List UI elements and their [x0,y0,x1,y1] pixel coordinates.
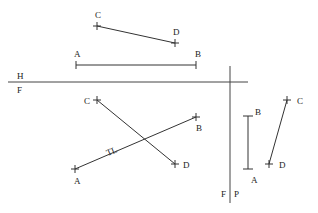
top-label-d: D [173,27,180,37]
fold-label-f2: F [221,189,226,199]
fold-label-h: H [17,71,24,81]
profile-label-c: C [297,96,303,106]
front-label-d: D [183,160,190,170]
projection-diagram: H F F P A B C D A B TL C D [0,0,318,213]
profile-segment-cd [269,100,287,164]
top-segment-cd [97,26,175,43]
profile-view: B A C D [243,96,303,185]
front-label-b: B [196,123,202,133]
front-label-a: A [74,176,81,186]
fold-label-p: P [234,189,239,199]
profile-label-d: D [279,160,286,170]
front-label-c: C [84,96,90,106]
front-segment-ab [75,117,196,169]
fold-label-f: F [17,85,22,95]
top-label-a: A [74,49,81,59]
top-label-c: C [95,10,101,20]
profile-label-a: A [251,175,258,185]
top-view: A B C D [74,10,201,69]
top-label-b: B [195,49,201,59]
profile-label-b: B [255,107,261,117]
front-view: A B TL C D [71,96,202,186]
front-label-tl: TL [105,144,119,158]
